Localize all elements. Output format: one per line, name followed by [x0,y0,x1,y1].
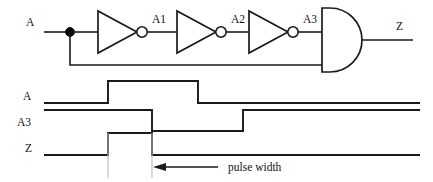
inverter-1-triangle [98,11,137,53]
inverter-2-triangle [177,11,216,53]
timing-diagram: A A3 Z pulse width [17,81,420,178]
waveform-label-z: Z [25,142,32,154]
pulse-width-label: pulse width [228,161,282,174]
and-gate-body [322,8,362,72]
waveform-label-a3: A3 [17,116,31,128]
inverter-3-triangle [249,11,288,53]
inverter-1-bubble [137,27,147,37]
inverter-3 [249,11,298,53]
waveform-label-a: A [23,90,32,102]
and-gate [322,8,362,72]
circuit-schematic: A A1 A2 [26,8,413,72]
node-label-a1: A1 [152,13,166,25]
pulse-width-annotation: pulse width [153,161,282,174]
node-label-a2: A2 [231,13,245,25]
circuit-input-label-a: A [26,16,35,28]
waveform-a [44,81,420,103]
inverter-2-bubble [216,27,226,37]
inverter-1 [98,11,147,53]
waveform-a3 [44,110,420,131]
inverter-3-bubble [288,27,298,37]
pulse-generator-figure: A A1 A2 [0,0,433,182]
node-label-a3: A3 [303,13,317,25]
pulse-width-arrow-head [153,163,166,171]
circuit-output-label-z: Z [396,20,403,32]
waveform-z [44,133,420,155]
figure-canvas: A A1 A2 [0,0,433,182]
inverter-2 [177,11,226,53]
